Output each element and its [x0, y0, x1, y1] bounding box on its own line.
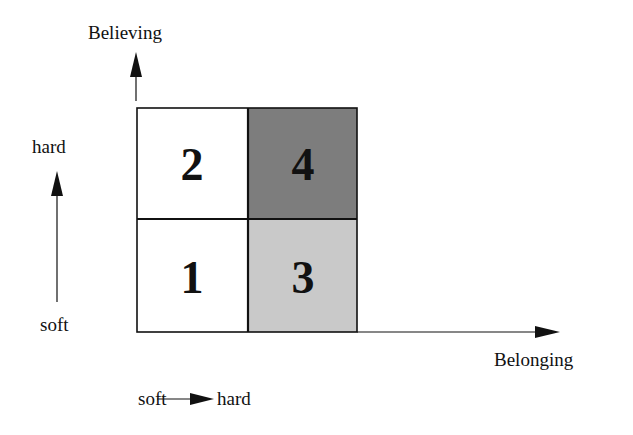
vertical-legend-top-label: hard [32, 137, 66, 156]
quadrant-2-number: 2 [137, 142, 247, 188]
x-axis-label: Belonging [494, 350, 573, 369]
horizontal-legend-arrowhead-icon [190, 393, 214, 405]
quadrant-3-number: 3 [248, 255, 358, 301]
quadrant-4-number: 4 [248, 142, 358, 188]
y-axis-label: Believing [88, 23, 162, 42]
belonging-axis-arrowhead-icon [535, 326, 560, 338]
vertical-legend-bottom-label: soft [40, 315, 69, 334]
quadrant-1-number: 1 [137, 255, 247, 301]
horizontal-legend-right-label: hard [217, 389, 251, 408]
vertical-legend-arrowhead-icon [51, 171, 63, 196]
believing-axis-arrowhead-icon [130, 52, 142, 77]
horizontal-legend-left-label: soft [138, 389, 167, 408]
